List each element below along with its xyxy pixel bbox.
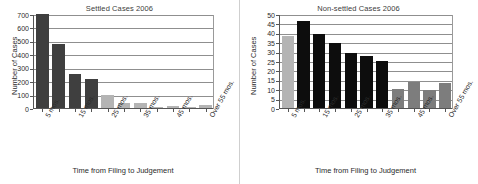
bar: [199, 105, 212, 108]
bar: [345, 53, 357, 108]
bar: [408, 82, 420, 108]
x-tick-mark: [351, 109, 352, 112]
bar: [376, 61, 388, 108]
y-tick-mark: [276, 71, 279, 72]
x-tick-mark: [288, 109, 289, 112]
bar: [282, 36, 294, 108]
chart-title-settled: Settled Cases 2006: [0, 4, 239, 13]
bar: [101, 95, 114, 108]
y-tick-mark: [276, 43, 279, 44]
x-tick-mark: [91, 109, 92, 112]
x-tick-mark: [206, 109, 207, 112]
y-tick-label: 35: [255, 40, 275, 47]
y-tick-mark: [30, 82, 33, 83]
y-tick-mark: [276, 90, 279, 91]
y-tick-mark: [276, 81, 279, 82]
x-tick-mark: [189, 109, 190, 112]
y-tick-label: 100: [9, 92, 29, 99]
x-axis-label-non-settled: Time from Filing to Judgement: [269, 166, 462, 175]
x-tick-mark: [59, 109, 60, 112]
x-tick-mark: [335, 109, 336, 112]
x-tick-mark: [382, 109, 383, 112]
y-tick-label: 600: [9, 25, 29, 32]
x-tick-mark: [157, 109, 158, 112]
bar: [313, 34, 325, 108]
x-tick-mark: [367, 109, 368, 112]
y-tick-mark: [276, 100, 279, 101]
y-tick-label: 0: [255, 106, 275, 113]
y-tick-label: 40: [255, 30, 275, 37]
x-tick-mark: [429, 109, 430, 112]
x-tick-mark: [445, 109, 446, 112]
bar: [167, 106, 180, 108]
y-tick-mark: [30, 42, 33, 43]
y-tick-label: 300: [9, 65, 29, 72]
x-tick-mark: [398, 109, 399, 112]
x-tick-mark: [140, 109, 141, 112]
y-tick-mark: [276, 24, 279, 25]
x-tick-mark: [108, 109, 109, 112]
y-tick-mark: [276, 34, 279, 35]
x-axis-label-settled: Time from Filing to Judgement: [23, 166, 223, 175]
y-tick-mark: [30, 15, 33, 16]
y-tick-label: 500: [9, 38, 29, 45]
x-tick-mark: [173, 109, 174, 112]
bar: [69, 74, 82, 108]
x-tick-mark: [304, 109, 305, 112]
x-tick-mark: [414, 109, 415, 112]
y-tick-mark: [30, 55, 33, 56]
x-tick-mark: [319, 109, 320, 112]
y-tick-mark: [276, 62, 279, 63]
y-tick-label: 15: [255, 77, 275, 84]
x-tick-mark: [124, 109, 125, 112]
bar: [439, 83, 451, 108]
y-tick-label: 30: [255, 49, 275, 56]
y-tick-mark: [30, 69, 33, 70]
y-tick-label: 0: [9, 106, 29, 113]
y-tick-mark: [30, 96, 33, 97]
y-tick-label: 45: [255, 21, 275, 28]
y-tick-mark: [30, 28, 33, 29]
y-tick-mark: [276, 15, 279, 16]
dual-bar-chart-figure: Settled Cases 2006 Number of Cases 01002…: [0, 0, 478, 184]
y-tick-label: 200: [9, 79, 29, 86]
y-tick-label: 700: [9, 12, 29, 19]
y-tick-label: 25: [255, 59, 275, 66]
x-tick-mark: [75, 109, 76, 112]
y-tick-label: 5: [255, 96, 275, 103]
y-tick-label: 400: [9, 52, 29, 59]
settled-cases-chart-panel: Settled Cases 2006 Number of Cases 01002…: [0, 0, 239, 184]
y-tick-label: 10: [255, 87, 275, 94]
y-tick-mark: [276, 109, 279, 110]
panel-divider: [239, 0, 240, 184]
bar: [134, 103, 147, 108]
y-tick-label: 20: [255, 68, 275, 75]
bar: [36, 14, 49, 108]
x-tick-mark: [42, 109, 43, 112]
y-tick-mark: [30, 109, 33, 110]
y-tick-label: 50: [255, 12, 275, 19]
non-settled-cases-chart-panel: Non-settled Cases 2006 Number of Cases 0…: [239, 0, 478, 184]
y-tick-mark: [276, 53, 279, 54]
bar: [297, 21, 309, 108]
